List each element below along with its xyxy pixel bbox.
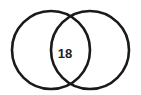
venn-diagram: 18: [0, 0, 141, 95]
intersection-count-label: 18: [58, 46, 72, 61]
